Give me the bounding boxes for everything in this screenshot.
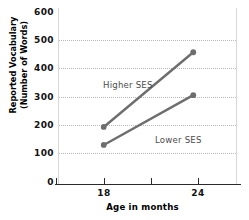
y-tick-label: 300 (26, 92, 54, 102)
series-annotation-lower-ses: Lower SES (155, 135, 202, 145)
data-point (101, 124, 107, 130)
y-axis-title-line1: Reported Vocabulary (8, 0, 19, 135)
x-axis-tick-24 (198, 178, 199, 185)
vocabulary-growth-chart: Reported Vocabulary (Number of Words) 60… (0, 0, 249, 220)
y-tick-label: 400 (26, 63, 54, 73)
y-tick-label: 0 (26, 177, 54, 187)
data-point (101, 142, 107, 148)
x-axis-tick-start (56, 178, 57, 185)
x-axis-tick-18 (104, 178, 105, 185)
y-tick-label: 200 (26, 120, 54, 130)
x-axis-title: Age in months (0, 202, 249, 212)
y-tick-label: 600 (26, 7, 54, 17)
x-axis-line (55, 184, 241, 185)
plot-area: Higher SES Lower SES (58, 8, 237, 184)
data-point (190, 92, 196, 98)
data-point (190, 49, 196, 55)
x-axis-tick-mid (151, 178, 152, 185)
series-plot (59, 8, 238, 184)
x-tick-label: 24 (191, 188, 204, 198)
y-axis-tick-labels: 600 500 400 300 200 100 0 (26, 0, 54, 190)
y-tick-label: 100 (26, 148, 54, 158)
series-annotation-higher-ses: Higher SES (103, 80, 153, 90)
y-tick-label: 500 (26, 35, 54, 45)
x-tick-label: 18 (97, 188, 110, 198)
